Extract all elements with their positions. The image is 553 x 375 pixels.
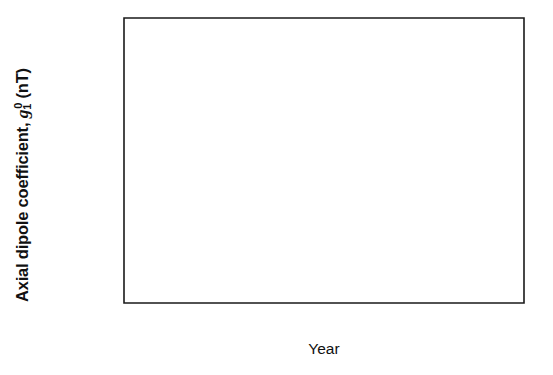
chart-figure: Axial dipole coefficient, g10 (nT) Year <box>0 0 553 375</box>
axis-frame <box>124 18 524 303</box>
axis-box <box>124 18 524 303</box>
plot-area <box>0 0 553 375</box>
